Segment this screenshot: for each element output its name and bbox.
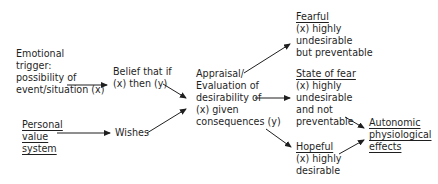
node-appraisal: Appraisal/ Evaluation of desirability of… <box>196 68 281 128</box>
node-wishes: Wishes <box>115 127 149 139</box>
node-line: possibility of <box>16 72 105 84</box>
node-line: system <box>22 143 63 155</box>
node-line: Belief that if <box>113 66 172 78</box>
node-line: (x) highly <box>296 23 373 35</box>
node-line: Wishes <box>115 127 149 139</box>
node-line: (x) highly <box>296 80 356 92</box>
node-line: and not <box>296 104 356 116</box>
node-state-of-fear: State of fear (x) highly undesirable and… <box>296 68 356 128</box>
node-line: Appraisal/ <box>196 68 281 80</box>
node-line: preventable <box>296 116 356 128</box>
node-title: State of fear <box>296 68 356 80</box>
node-line: (x) then (y) <box>113 78 172 90</box>
node-line: effects <box>369 141 432 153</box>
node-line: undesirable <box>296 35 373 47</box>
node-line: (x) highly <box>296 153 341 165</box>
node-line: value <box>22 131 63 143</box>
node-line: consequences (y) <box>196 116 281 128</box>
node-line: desirability of <box>196 92 281 104</box>
node-line: Autonomic <box>369 117 432 129</box>
node-line: Emotional <box>16 48 105 60</box>
node-hopeful: Hopeful (x) highly desirable <box>296 141 341 177</box>
node-personal-value-system: Personal value system <box>22 119 63 155</box>
node-emotional-trigger: Emotional trigger: possibility of event/… <box>16 48 105 96</box>
node-title: Fearful <box>296 11 373 23</box>
arrow-wishes-to-appraisal <box>147 109 186 133</box>
node-line: Evaluation of <box>196 80 281 92</box>
node-line: event/situation (x) <box>16 84 105 96</box>
node-autonomic-effects: Autonomic physiological effects <box>369 117 432 153</box>
node-line: trigger: <box>16 60 105 72</box>
node-title: Hopeful <box>296 141 341 153</box>
node-belief: Belief that if (x) then (y) <box>113 66 172 90</box>
node-fearful: Fearful (x) highly undesirable but preve… <box>296 11 373 59</box>
node-line: Personal <box>22 119 63 131</box>
node-line: desirable <box>296 165 341 177</box>
node-line: but preventable <box>296 47 373 59</box>
node-line: (x) given <box>196 104 281 116</box>
arrow-hopeful-to-autonomic <box>339 140 364 154</box>
node-line: physiological <box>369 129 432 141</box>
node-line: undesirable <box>296 92 356 104</box>
arrow-appraisal-to-hopeful <box>266 129 291 147</box>
